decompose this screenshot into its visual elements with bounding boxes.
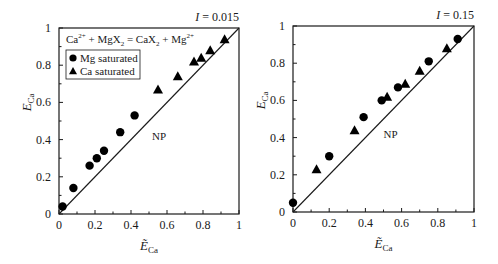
data-point-circle xyxy=(325,152,333,160)
legend-circle-icon xyxy=(69,54,76,61)
x-tick-label: 0 xyxy=(290,216,296,230)
y-tick-label: 1 xyxy=(45,21,51,35)
legend: Mg saturatedCa saturated xyxy=(66,50,140,79)
data-point-circle xyxy=(85,161,93,169)
y-tick-label: 0.8 xyxy=(270,56,285,70)
np-label: NP xyxy=(152,130,166,142)
data-point-triangle xyxy=(153,84,163,93)
chart-panel-right: 00.20.40.60.8100.20.40.60.81I = 0.15ẼCaE… xyxy=(253,8,477,253)
data-point-circle xyxy=(130,111,138,119)
y-tick-label: 0 xyxy=(45,207,51,221)
data-point-circle xyxy=(454,35,462,43)
data-point-triangle xyxy=(382,92,392,101)
one-to-one-line xyxy=(293,26,474,212)
data-point-circle xyxy=(425,57,433,65)
data-point-circle xyxy=(93,154,101,162)
legend-label: Mg saturated xyxy=(80,52,138,64)
x-tick-label: 0.6 xyxy=(394,216,409,230)
x-axis-label: ẼCa xyxy=(139,238,158,255)
x-tick-label: 0 xyxy=(56,218,62,232)
data-point-circle xyxy=(289,199,297,207)
data-point-triangle xyxy=(312,164,322,173)
figure: 00.20.40.60.8100.20.40.60.81I = 0.015ẼCa… xyxy=(0,0,498,264)
y-tick-label: 0.4 xyxy=(36,133,51,147)
y-tick-label: 0.4 xyxy=(270,131,285,145)
x-tick-label: 0.4 xyxy=(124,218,139,232)
data-point-circle xyxy=(100,147,108,155)
y-tick-label: 1 xyxy=(279,19,285,33)
data-point-triangle xyxy=(415,66,425,75)
data-point-triangle xyxy=(173,71,183,80)
y-axis-label: ECa xyxy=(253,91,270,110)
x-tick-label: 0.8 xyxy=(430,216,445,230)
y-tick-label: 0.2 xyxy=(36,170,51,184)
x-tick-label: 0.4 xyxy=(358,216,373,230)
x-tick-label: 0.2 xyxy=(322,216,337,230)
np-label: NP xyxy=(384,128,398,140)
x-tick-label: 1 xyxy=(236,218,242,232)
y-axis-label: ECa xyxy=(19,93,36,112)
y-tick-label: 0 xyxy=(279,205,285,219)
data-point-circle xyxy=(69,184,77,192)
x-tick-label: 0.6 xyxy=(160,218,175,232)
chart-canvas: 00.20.40.60.8100.20.40.60.81I = 0.015ẼCa… xyxy=(0,0,498,264)
chart-title: I = 0.15 xyxy=(435,8,474,22)
y-tick-label: 0.6 xyxy=(270,93,285,107)
reaction-equation: Ca2+ + MgX2 = CaX2 + Mg2+ xyxy=(66,32,194,48)
x-axis-label: ẼCa xyxy=(374,236,393,253)
chart-title: I = 0.015 xyxy=(194,10,239,24)
x-tick-label: 0.2 xyxy=(88,218,103,232)
data-point-triangle xyxy=(442,43,452,52)
data-point-circle xyxy=(58,202,66,210)
x-tick-label: 0.8 xyxy=(196,218,211,232)
data-point-circle xyxy=(359,113,367,121)
y-tick-label: 0.8 xyxy=(36,58,51,72)
x-tick-label: 1 xyxy=(471,216,477,230)
data-point-triangle xyxy=(196,53,206,62)
data-point-circle xyxy=(116,128,124,136)
y-tick-label: 0.2 xyxy=(270,168,285,182)
data-point-triangle xyxy=(205,45,215,54)
legend-label: Ca saturated xyxy=(80,65,135,77)
chart-panel-left: 00.20.40.60.8100.20.40.60.81I = 0.015ẼCa… xyxy=(19,10,242,255)
y-tick-label: 0.6 xyxy=(36,95,51,109)
data-point-triangle xyxy=(350,125,360,134)
data-point-triangle xyxy=(400,79,410,88)
